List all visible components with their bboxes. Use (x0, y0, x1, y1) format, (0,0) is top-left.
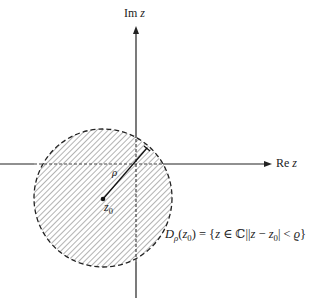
complex-plane-diagram (0, 0, 327, 298)
def-close: } (300, 227, 306, 241)
radius-label: ρ (112, 166, 117, 178)
z-sub: 0 (109, 207, 113, 216)
real-axis-arrow-icon (264, 161, 272, 167)
real-var: z (292, 156, 297, 170)
real-prefix: Re (276, 156, 289, 170)
def-in: ∈ ℂ|| (220, 227, 250, 241)
imag-axis-label: Im z (124, 6, 145, 21)
imag-axis-arrow-icon (133, 26, 139, 34)
def-d: D (165, 227, 174, 241)
center-label: z0 (104, 200, 113, 216)
disk-definition: Dρ(z0) = {z ∈ ℂ||z − z0| < ϱ} (165, 226, 306, 243)
real-axis-label: Re z (276, 156, 297, 171)
def-lt: | < (278, 227, 294, 241)
def-minus: − (255, 227, 268, 241)
rho-symbol: ρ (112, 166, 117, 178)
imag-prefix: Im (124, 6, 137, 20)
imag-var: z (140, 6, 145, 20)
def-eq: ) = { (192, 227, 215, 241)
